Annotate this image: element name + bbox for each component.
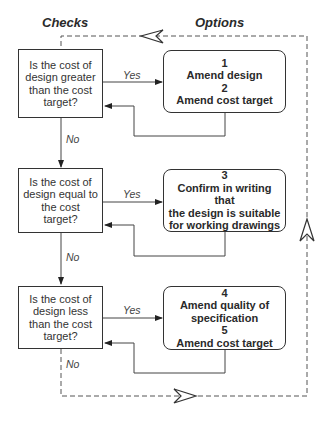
option-text-amend-cost-target: Amend cost target [176,94,273,107]
checks-header: Checks [42,15,88,30]
options-header: Options [195,15,244,30]
option-box-1-2: 1 Amend design 2 Amend cost target [163,50,286,113]
flowchart-canvas: Checks Options Is the cost of design gre… [0,0,326,425]
check-box-equal: Is the cost of design equal to the cost … [18,168,103,233]
option-text-line: Amend quality of [180,299,269,312]
option-box-3: 3 Confirm in writing that the design is … [163,169,286,232]
option-text-line: specification [191,312,258,325]
yes-label-2: Yes [123,188,141,200]
check-box-greater: Is the cost of design greater than the c… [18,49,103,118]
no-label-1: No [66,133,79,145]
option-number-1: 1 [221,57,227,70]
option-text-line: Confirm in writing that [168,182,281,207]
option-number-4: 4 [221,287,227,300]
check-box-less: Is the cost of design less than the cost… [18,286,103,349]
yes-label-3: Yes [123,304,141,316]
no-label-3: No [66,358,79,370]
option-number-2: 2 [221,82,227,95]
option-text-line: for working drawings [169,219,280,232]
option-text-line: the design is suitable [169,207,281,220]
option-text-amend-cost-target: Amend cost target [176,337,273,350]
no-label-2: No [66,251,79,263]
yes-label-1: Yes [123,69,141,81]
option-number-5: 5 [221,324,227,337]
option-box-4-5: 4 Amend quality of specification 5 Amend… [163,286,286,350]
option-number-3: 3 [221,169,227,182]
option-text-amend-design: Amend design [187,69,263,82]
